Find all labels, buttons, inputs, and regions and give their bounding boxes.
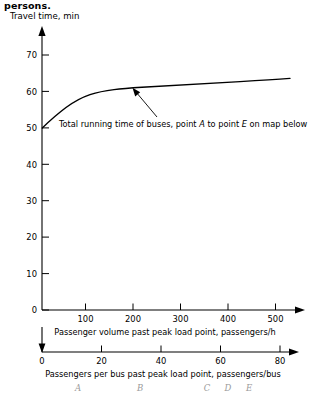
x-secondary-tick-label: 80	[275, 356, 286, 366]
y-tick-label: 60	[26, 87, 37, 97]
x-secondary-tick-label: 60	[215, 356, 226, 366]
annotation-label: Total running time of buses, point A to …	[58, 119, 308, 129]
x-axis-primary-ticks	[86, 304, 276, 311]
x-secondary-tick-label: 0	[39, 356, 44, 366]
x-tick-label: 400	[220, 314, 236, 324]
x-axis-secondary-tick-labels: 0 20 40 60 80	[39, 356, 285, 366]
map-point-label: D	[224, 383, 232, 393]
map-point-label: A	[74, 383, 81, 393]
chart-svg: 0 10 20 30 40 50 60 70 100 200 300 400 5…	[0, 0, 319, 393]
y-tick-label: 20	[26, 232, 37, 242]
map-point-labels: A B C D E	[74, 383, 253, 393]
x-axis-primary	[42, 306, 305, 313]
x-secondary-tick-label: 40	[156, 356, 167, 366]
x-tick-label: 300	[173, 314, 189, 324]
y-axis-ticks	[42, 55, 49, 310]
x-axis-primary-tick-labels: 100 200 300 400 500	[78, 314, 284, 324]
y-tick-label: 30	[26, 196, 37, 206]
map-point-label: B	[136, 383, 143, 393]
y-axis-tick-labels: 0 10 20 30 40 50 60 70	[26, 50, 37, 315]
map-point-label: C	[204, 383, 211, 393]
y-tick-label: 70	[26, 50, 37, 60]
annotation-leader-line	[133, 88, 158, 117]
x-tick-label: 200	[125, 314, 141, 324]
x-axis-secondary	[42, 348, 299, 355]
y-tick-label: 0	[32, 305, 37, 315]
y-tick-label: 10	[26, 269, 37, 279]
x-axis-secondary-caption: Passengers per bus past peak load point,…	[45, 369, 281, 379]
x-tick-label: 100	[78, 314, 94, 324]
x-tick-label: 500	[268, 314, 284, 324]
x-secondary-tick-label: 20	[96, 356, 107, 366]
y-axis	[38, 26, 45, 310]
y-tick-label: 50	[26, 123, 37, 133]
y-tick-label: 40	[26, 160, 37, 170]
x-axis-secondary-ticks	[42, 346, 280, 353]
figure-travel-time-chart: persons. Travel time, min 0 10 20 30 40 …	[0, 0, 319, 393]
x-axis-primary-caption: Passenger volume past peak load point, p…	[54, 327, 275, 337]
map-point-label: E	[245, 383, 253, 393]
